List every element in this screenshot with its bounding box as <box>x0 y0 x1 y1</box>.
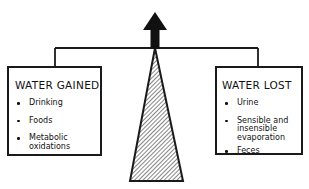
water-gained-list: Drinking Foods Metabolic oxidations <box>15 99 87 160</box>
water-lost-title: WATER LOST <box>222 79 292 91</box>
list-item: Urine <box>223 99 299 108</box>
water-gained-title: WATER GAINED <box>15 79 99 91</box>
water-gained-panel: WATER GAINED Drinking Foods Metabolic ox… <box>7 66 102 156</box>
water-lost-panel: WATER LOST Urine Sensible and insensible… <box>215 66 303 155</box>
list-item: Feces <box>223 147 299 156</box>
fulcrum-triangle <box>130 48 183 181</box>
up-arrow-icon <box>143 12 167 49</box>
water-lost-list: Urine Sensible and insensible evaporatio… <box>223 99 299 161</box>
list-item: Sensible and insensible evaporation <box>223 117 299 143</box>
list-item: Metabolic oxidations <box>15 134 87 151</box>
list-item: Foods <box>15 117 87 126</box>
list-item: Drinking <box>15 99 87 108</box>
